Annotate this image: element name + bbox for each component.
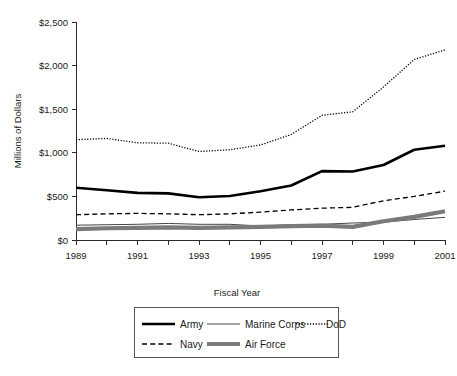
x-axis-tick-marks xyxy=(76,240,445,245)
x-tick-label: 2001 xyxy=(434,250,455,261)
x-tick-label: 1995 xyxy=(250,250,271,261)
y-tick-label: $1,500 xyxy=(39,104,68,115)
y-tick-label: $1,000 xyxy=(39,147,68,158)
legend-label-dod: DoD xyxy=(326,319,346,330)
x-tick-label: 1999 xyxy=(373,250,394,261)
x-axis-tick-labels: 1989199119931995199719992001 xyxy=(65,250,455,261)
legend-box xyxy=(134,307,338,357)
y-tick-label: $2,500 xyxy=(39,17,68,28)
series-line-navy xyxy=(76,191,445,215)
y-axis-tick-marks xyxy=(72,22,76,240)
y-axis-title: Millions of Dollars xyxy=(12,94,23,169)
legend-items: ArmyMarine CorpsDoDNavyAir Force xyxy=(142,319,346,350)
legend-label-air-force: Air Force xyxy=(245,339,286,350)
legend-label-army: Army xyxy=(180,319,203,330)
series-line-army xyxy=(76,146,445,197)
chart-figure: $0$500$1,000$1,500$2,000$2,500 198919911… xyxy=(0,0,457,376)
series-line-air-force xyxy=(76,211,445,229)
series-line-dod xyxy=(76,50,445,152)
x-tick-label: 1989 xyxy=(65,250,86,261)
legend-label-navy: Navy xyxy=(180,339,203,350)
x-tick-label: 1991 xyxy=(127,250,148,261)
y-tick-label: $0 xyxy=(57,235,68,246)
x-axis-title: Fiscal Year xyxy=(214,287,260,298)
footer-ghost-text xyxy=(0,367,457,376)
line-chart: $0$500$1,000$1,500$2,000$2,500 198919911… xyxy=(0,0,457,376)
series-lines xyxy=(76,50,445,229)
x-tick-label: 1993 xyxy=(188,250,209,261)
y-tick-label: $500 xyxy=(47,191,68,202)
y-axis-tick-labels: $0$500$1,000$1,500$2,000$2,500 xyxy=(39,17,68,246)
x-tick-label: 1997 xyxy=(311,250,332,261)
y-tick-label: $2,000 xyxy=(39,60,68,71)
